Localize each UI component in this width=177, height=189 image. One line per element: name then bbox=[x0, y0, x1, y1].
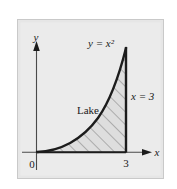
x-tick-label-3: 3 bbox=[123, 157, 129, 169]
figure-container: y x 0 3 y = x² x = 3 Lake bbox=[0, 0, 177, 189]
region-label: Lake bbox=[77, 104, 99, 116]
x-axis-label: x bbox=[154, 146, 160, 158]
origin-label: 0 bbox=[29, 158, 35, 170]
curve-label: y = x² bbox=[87, 37, 115, 49]
y-axis-label: y bbox=[33, 31, 39, 43]
lake-area-figure: y x 0 3 y = x² x = 3 Lake bbox=[0, 0, 177, 189]
vertical-line-label: x = 3 bbox=[130, 90, 155, 102]
